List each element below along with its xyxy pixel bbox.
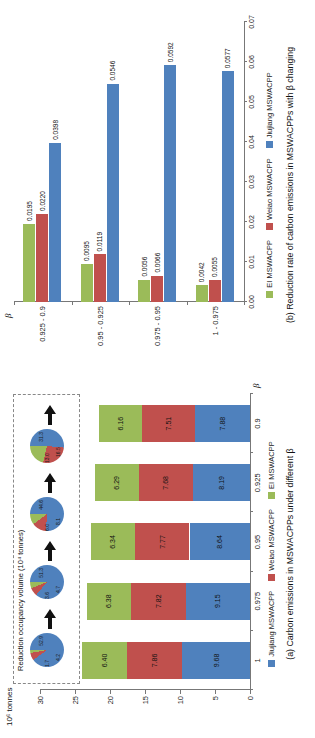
category-label: 0.975 - 0.95 [153, 306, 162, 368]
bar-segment-value: 7.82 [155, 594, 162, 608]
bar-segment: 9.15 [186, 583, 250, 620]
legend-item: Jiujiang MSWACPP [265, 72, 274, 148]
category-label: 0.975 [253, 576, 262, 626]
legend-item: EI MSWACPP [267, 441, 276, 499]
x-tick-label: 0.06 [248, 50, 255, 74]
x-tick-mark [244, 141, 247, 142]
y-tick-mark [40, 690, 41, 694]
x-tick-mark [250, 571, 253, 572]
bar-segment-value: 7.68 [162, 476, 169, 490]
panel-b-beta-axis-symbol: β [3, 314, 13, 318]
category-label: 0.9 [253, 399, 262, 449]
reduction-rate-bar [222, 71, 234, 302]
y-tick-mark [145, 690, 146, 694]
bar-segment-value: 6.38 [105, 594, 112, 608]
x-tick-label: 0.00 [248, 290, 255, 314]
y-tick-label: 15 [141, 696, 150, 716]
x-tick-mark [244, 181, 247, 182]
x-tick-mark [244, 21, 247, 22]
y-tick-mark [180, 690, 181, 694]
y-tick-label: 30 [36, 696, 45, 716]
bar-value-label: 0.0195 [26, 201, 33, 221]
y-tick-label: 20 [106, 696, 115, 716]
y-tick-mark [75, 690, 76, 694]
bar-segment-value: 7.77 [159, 535, 166, 549]
reduction-rate-bar [151, 276, 163, 302]
category-label: 0.95 [253, 517, 262, 567]
bar-segment-value: 7.51 [165, 417, 172, 431]
reduction-rate-bar [81, 264, 93, 302]
panel-a-legend: Jiujiang MSWACPPWeiao MSWACPPEI MSWACPP [267, 370, 276, 738]
bar-segment: 9.68 [182, 642, 250, 679]
bar-value-label: 0.0066 [154, 253, 161, 273]
y-tick-mark [187, 302, 188, 305]
reduction-rate-bar [209, 280, 221, 302]
legend-item-label: Weiao MSWACPP [265, 158, 274, 220]
bar-segment: 7.68 [139, 464, 193, 501]
reduction-rate-bar [94, 254, 106, 302]
reduction-rate-bar [49, 143, 61, 302]
bar-segment: 7.86 [127, 642, 182, 679]
x-tick-label: 0.05 [248, 90, 255, 114]
bar-segment-value: 9.68 [213, 654, 220, 668]
category-label: 0.925 - 0.9 [38, 306, 47, 368]
y-tick-label: 10 [176, 696, 185, 716]
x-tick-mark [250, 511, 253, 512]
legend-swatch [266, 141, 273, 148]
legend-swatch [268, 574, 275, 581]
inset-title: Reduction occupancy volume (10⁴ tonnes) [16, 530, 25, 671]
legend-item: Weiao MSWACPP [265, 158, 274, 230]
category-label: 0.925 [253, 458, 262, 508]
bar-value-label: 0.0042 [198, 262, 205, 282]
x-tick-mark [244, 101, 247, 102]
bar-segment-value: 6.16 [117, 417, 124, 431]
bar-segment: 6.40 [82, 642, 127, 679]
reduction-rate-bar [23, 224, 35, 302]
legend-item-label: Jiujiang MSWACPP [265, 72, 274, 138]
bar-value-label: 0.0055 [211, 257, 218, 277]
x-tick-mark [250, 452, 253, 453]
y-tick-label: 5 [211, 696, 220, 716]
panel-b-caption: (b) Reduction rate of carbon emissions i… [285, 0, 295, 370]
bar-segment-value: 8.19 [218, 476, 225, 490]
bar-segment: 7.77 [135, 524, 189, 561]
legend-item-label: EI MSWACPP [267, 441, 276, 489]
y-tick-mark [129, 302, 130, 305]
bar-segment-value: 9.15 [214, 594, 221, 608]
legend-swatch [268, 492, 275, 499]
legend-item: Weiao MSWACPP [267, 509, 276, 581]
y-tick-label: 0 [246, 696, 255, 716]
bar-segment-value: 6.34 [109, 535, 116, 549]
bar-segment: 8.64 [190, 524, 251, 561]
bar-segment: 7.82 [131, 583, 186, 620]
x-tick-label: 0.01 [248, 250, 255, 274]
legend-item-label: EI MSWACPP [265, 240, 274, 288]
bar-segment-value: 7.88 [219, 417, 226, 431]
category-label: 1 [253, 635, 262, 685]
panel-reduction-rate: β EI MSWACPPWeiao MSWACPPJiujiang MSWACP… [0, 0, 315, 370]
x-tick-label: 0.03 [248, 170, 255, 194]
bar-value-label: 0.0546 [109, 61, 116, 81]
x-tick-mark [244, 221, 247, 222]
legend-swatch [266, 223, 273, 230]
category-label: 1 - 0.975 [211, 306, 220, 368]
reduction-rate-bar [138, 280, 150, 302]
bar-segment: 6.16 [99, 405, 142, 442]
legend-item-label: Weiao MSWACPP [267, 509, 276, 571]
bar-segment-value: 8.64 [216, 535, 223, 549]
bar-segment-value: 6.29 [113, 476, 120, 490]
bar-segment: 6.34 [91, 524, 135, 561]
legend-item: Jiujiang MSWACPP [267, 591, 276, 667]
panel-carbon-emissions: 10⁶ tonnes Reduction occupancy volume (1… [0, 370, 315, 738]
legend-item-label: Jiujiang MSWACPP [267, 591, 276, 657]
x-tick-mark [250, 630, 253, 631]
reduction-rate-bar [164, 65, 176, 302]
x-tick-label: 0.04 [248, 130, 255, 154]
bar-value-label: 0.0095 [83, 241, 90, 261]
panel-b-legend: EI MSWACPPWeiao MSWACPPJiujiang MSWACPP [265, 0, 274, 370]
legend-swatch [266, 291, 273, 298]
bar-segment: 6.38 [87, 583, 132, 620]
x-tick-mark [250, 689, 253, 690]
y-tick-mark [110, 690, 111, 694]
panel-a-y-axis-label: 10⁶ tonnes [5, 688, 14, 726]
